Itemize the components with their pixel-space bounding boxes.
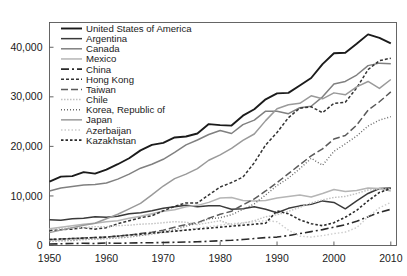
- x-tick-label: 2010: [379, 252, 403, 264]
- y-tick-label: 10,000: [10, 190, 42, 202]
- x-axis-ticks: 1950196019701980199020002010: [38, 242, 403, 264]
- gdp-per-capita-line-chart: 010,00020,00030,00040,000 19501960197019…: [0, 0, 407, 276]
- legend-label-kazakhstan: Kazakhstan: [86, 135, 136, 146]
- y-tick-label: 40,000: [10, 41, 42, 53]
- x-tick-label: 1990: [265, 252, 289, 264]
- series-line-mexico: [50, 188, 391, 229]
- series-line-argentina: [50, 188, 391, 220]
- y-tick-label: 20,000: [10, 140, 42, 152]
- x-tick-label: 1950: [38, 252, 62, 264]
- y-axis-ticks: 010,00020,00030,00040,000: [10, 41, 53, 251]
- chart-legend: United States of AmericaArgentinaCanadaM…: [61, 23, 192, 146]
- y-tick-label: 0: [37, 239, 43, 251]
- chart-canvas: 010,00020,00030,00040,000 19501960197019…: [0, 0, 407, 276]
- x-tick-label: 1970: [152, 252, 176, 264]
- y-tick-label: 30,000: [10, 90, 42, 102]
- x-tick-label: 2000: [322, 252, 346, 264]
- x-tick-label: 1960: [95, 252, 119, 264]
- x-tick-label: 1980: [208, 252, 232, 264]
